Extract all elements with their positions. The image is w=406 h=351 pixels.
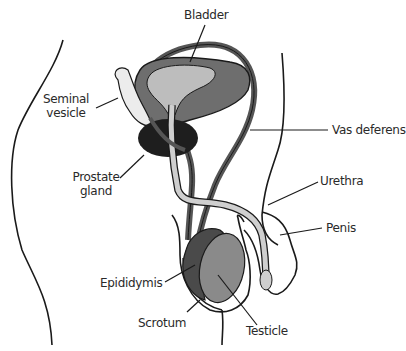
label-prostate-gland-line1: Prostate bbox=[68, 170, 124, 184]
label-testicle: Testicle bbox=[246, 324, 288, 338]
label-prostate-gland-line2: gland bbox=[68, 184, 124, 198]
label-seminal-vesicle-line1: Seminal bbox=[36, 92, 96, 106]
label-scrotum: Scrotum bbox=[138, 316, 186, 330]
label-urethra: Urethra bbox=[320, 174, 363, 188]
label-penis: Penis bbox=[326, 221, 356, 235]
body-outline-back bbox=[12, 40, 63, 345]
label-vas-deferens: Vas deferens bbox=[332, 123, 406, 137]
label-seminal-vesicle-line2: vesicle bbox=[36, 106, 96, 120]
perineum-line bbox=[222, 310, 223, 345]
label-epididymis: Epididymis bbox=[100, 276, 162, 290]
urethra-glans-bulb bbox=[260, 270, 272, 290]
label-bladder: Bladder bbox=[184, 8, 228, 22]
